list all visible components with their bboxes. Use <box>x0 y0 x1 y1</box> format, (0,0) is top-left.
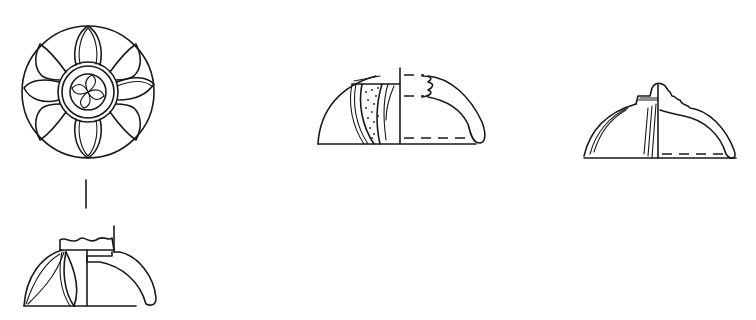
stepped-knob-profile <box>584 83 736 158</box>
rosette-profile <box>24 226 156 306</box>
rosette-top-view <box>22 26 154 158</box>
stippled-profile <box>318 68 485 144</box>
drawing-canvas <box>0 0 756 320</box>
